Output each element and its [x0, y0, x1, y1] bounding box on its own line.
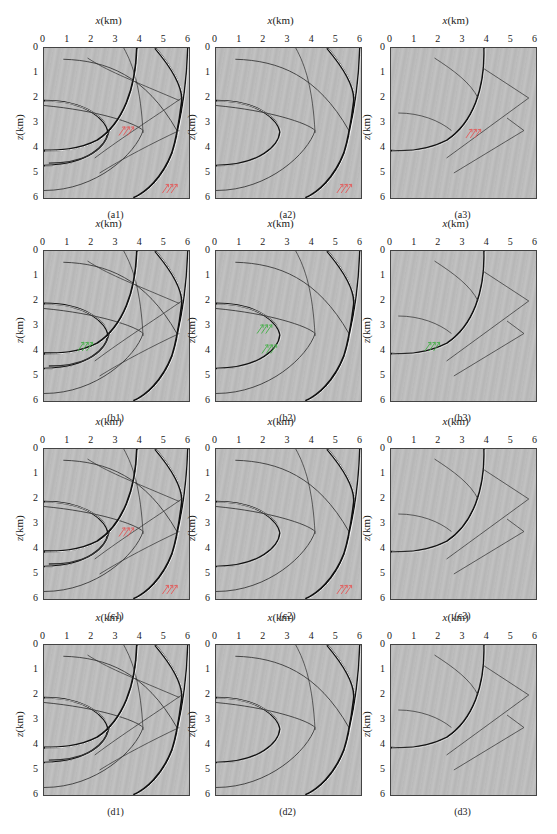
z-tick: 1	[380, 468, 385, 478]
z-axis-label: z(km)	[360, 317, 372, 343]
z-tick: 4	[33, 142, 38, 152]
z-axis-label: z(km)	[360, 114, 372, 140]
x-tick: 0	[40, 631, 45, 641]
x-tick: 3	[285, 34, 290, 44]
z-tick: 0	[380, 245, 385, 255]
x-tick: 5	[333, 435, 338, 445]
x-tick: 4	[137, 237, 142, 247]
z-tick: 0	[33, 639, 38, 649]
x-tick: 0	[387, 34, 392, 44]
z-axis-label: z(km)	[13, 711, 25, 737]
x-tick: 5	[333, 631, 338, 641]
z-tick: 5	[33, 568, 38, 578]
x-tick: 5	[508, 435, 513, 445]
x-tick: 2	[435, 631, 440, 641]
x-tick: 1	[64, 435, 69, 445]
x-tick: 1	[236, 631, 241, 641]
z-tick: 0	[380, 443, 385, 453]
z-tick: 3	[380, 117, 385, 127]
z-tick: 5	[380, 167, 385, 177]
x-tick: 4	[309, 631, 314, 641]
z-tick: 0	[33, 443, 38, 453]
x-axis-label: x(km)	[96, 415, 122, 427]
x-tick: 6	[532, 435, 537, 445]
z-tick: 3	[205, 117, 210, 127]
x-tick: 4	[309, 435, 314, 445]
seismic-image	[215, 47, 362, 199]
z-tick: 1	[380, 664, 385, 674]
x-tick: 5	[333, 34, 338, 44]
z-tick: 5	[33, 167, 38, 177]
z-tick: 5	[205, 568, 210, 578]
panel-caption: (d2)	[258, 806, 318, 817]
x-tick: 0	[212, 631, 217, 641]
x-axis-label: x(km)	[96, 611, 122, 623]
x-tick: 3	[460, 237, 465, 247]
x-axis-label: x(km)	[96, 14, 122, 26]
x-tick: 3	[113, 631, 118, 641]
z-tick: 2	[33, 493, 38, 503]
z-tick: 0	[205, 245, 210, 255]
z-tick: 2	[380, 295, 385, 305]
seismic-image	[390, 47, 537, 199]
x-tick: 1	[411, 237, 416, 247]
z-tick: 0	[205, 443, 210, 453]
x-tick: 4	[484, 435, 489, 445]
x-axis-label: x(km)	[268, 217, 294, 229]
x-tick: 5	[161, 631, 166, 641]
x-tick: 4	[309, 34, 314, 44]
seismic-image	[215, 448, 362, 600]
z-tick: 3	[33, 320, 38, 330]
x-tick: 0	[387, 435, 392, 445]
z-tick: 5	[380, 764, 385, 774]
z-tick: 2	[33, 92, 38, 102]
seismic-image	[390, 448, 537, 600]
x-tick: 1	[64, 34, 69, 44]
z-tick: 1	[205, 270, 210, 280]
x-tick: 5	[508, 237, 513, 247]
x-axis-label: x(km)	[443, 415, 469, 427]
x-axis-label: x(km)	[443, 14, 469, 26]
x-tick: 5	[161, 34, 166, 44]
x-tick: 5	[161, 237, 166, 247]
z-tick: 3	[33, 518, 38, 528]
z-tick: 1	[380, 67, 385, 77]
x-tick: 1	[411, 435, 416, 445]
x-axis-label: x(km)	[268, 14, 294, 26]
z-tick: 1	[205, 664, 210, 674]
x-tick: 1	[411, 34, 416, 44]
z-tick: 4	[380, 543, 385, 553]
x-axis-label: x(km)	[268, 611, 294, 623]
z-tick: 4	[33, 345, 38, 355]
x-tick: 3	[460, 34, 465, 44]
z-tick: 0	[33, 42, 38, 52]
z-tick: 3	[380, 518, 385, 528]
z-axis-label: z(km)	[13, 317, 25, 343]
x-tick: 3	[285, 237, 290, 247]
x-tick: 6	[357, 631, 362, 641]
z-tick: 4	[205, 345, 210, 355]
z-tick: 5	[33, 370, 38, 380]
z-tick: 2	[205, 493, 210, 503]
z-tick: 4	[205, 739, 210, 749]
x-tick: 2	[435, 34, 440, 44]
x-tick: 4	[484, 34, 489, 44]
panel-caption: (d1)	[86, 806, 146, 817]
x-tick: 4	[484, 237, 489, 247]
x-tick: 4	[137, 435, 142, 445]
seismic-image	[43, 250, 190, 402]
x-tick: 0	[212, 34, 217, 44]
x-tick: 1	[236, 34, 241, 44]
z-tick: 2	[205, 689, 210, 699]
x-tick: 6	[357, 34, 362, 44]
x-tick: 6	[185, 435, 190, 445]
x-tick: 0	[387, 237, 392, 247]
z-tick: 6	[205, 395, 210, 405]
z-tick: 3	[205, 320, 210, 330]
x-tick: 0	[40, 34, 45, 44]
z-tick: 2	[380, 689, 385, 699]
x-tick: 2	[88, 435, 93, 445]
z-tick: 6	[205, 593, 210, 603]
x-tick: 6	[532, 631, 537, 641]
x-tick: 3	[113, 435, 118, 445]
